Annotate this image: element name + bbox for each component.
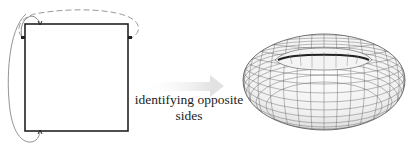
diagram-canvas [0, 0, 419, 149]
square-figure [8, 10, 138, 142]
caption-line-2: sides [131, 108, 247, 124]
caption-line-1: identifying opposite [131, 92, 247, 108]
square [25, 24, 128, 131]
edge-marker-left [21, 36, 25, 39]
torus-figure [243, 32, 405, 130]
diagram-figure: identifying opposite sides [0, 0, 419, 149]
caption: identifying opposite sides [131, 92, 247, 124]
edge-marker-right [128, 36, 132, 39]
